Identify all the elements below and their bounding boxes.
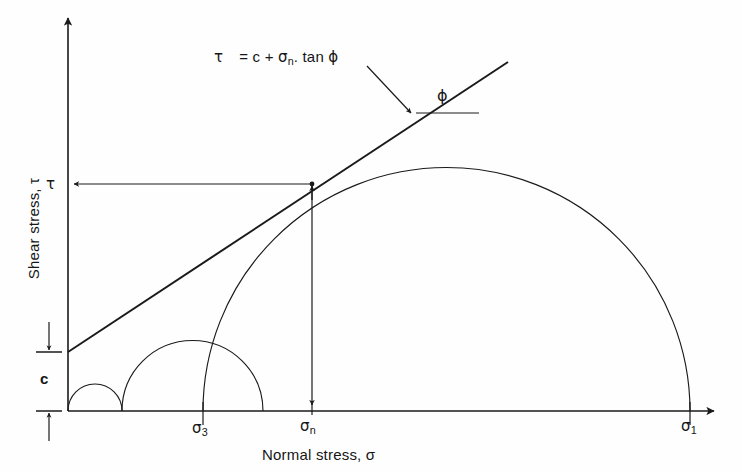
equation-leader-line [367, 66, 411, 113]
sigma-n-subscript: n [310, 424, 316, 436]
equation-phi: ϕ [328, 48, 338, 66]
sigma3-subscript: 3 [202, 426, 208, 438]
mohr-coulomb-figure: Shear stress, τ Normal stress, σ τ c σ3 … [0, 0, 742, 472]
equation-tan: tan [302, 48, 323, 65]
sigma1-subscript: 1 [691, 424, 697, 436]
tau-axis-label: τ [46, 175, 55, 193]
sigma3-base: σ [192, 419, 202, 437]
mohr-diagram-canvas [0, 0, 742, 472]
y-axis-title: Shear stress, τ [25, 149, 42, 309]
mohr-circle-large [203, 168, 690, 411]
equation-sigma: σ [278, 48, 288, 66]
failure-criterion-equation: τ= c + σn. tan ϕ [214, 48, 338, 67]
equation-plus: + [265, 48, 274, 65]
tangent-point-marker [310, 182, 315, 187]
phi-angle-label: ϕ [437, 86, 448, 105]
mohr-circle-medium [122, 341, 263, 412]
sigma1-base: σ [681, 417, 691, 435]
equation-equals: = [239, 48, 248, 65]
sigma-n-base: σ [300, 417, 310, 435]
x-axis-title: Normal stress, σ [262, 446, 375, 463]
sigma1-label: σ1 [681, 417, 697, 436]
cohesion-label: c [40, 370, 49, 387]
failure-envelope-line [68, 62, 508, 352]
equation-lhs: τ [214, 48, 223, 66]
equation-cohesion: c [253, 48, 261, 65]
sigma-n-label: σn [300, 417, 316, 436]
sigma3-label: σ3 [192, 419, 208, 438]
equation-dot: . [294, 48, 298, 65]
mohr-circle-small [68, 384, 122, 411]
